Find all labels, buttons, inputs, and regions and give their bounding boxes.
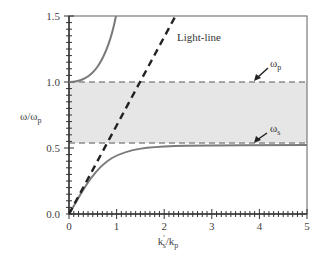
x-tick-label: 2	[161, 220, 167, 232]
x-tick-label: 5	[304, 220, 310, 232]
y-tick-label: 1.0	[46, 76, 60, 88]
x-axis-title: k's/kp	[158, 234, 179, 250]
x-axis-ticks	[69, 209, 307, 219]
x-tick-label: 3	[209, 220, 215, 232]
dispersion-chart: Light-line ωp ωs 0.0 0.5 1.0 1.5 0 1 2 3…	[0, 0, 324, 260]
y-tick-label: 0.5	[46, 142, 60, 154]
light-line-label: Light-line	[177, 31, 221, 43]
y-axis-title: ω/ωp	[20, 110, 42, 125]
omega-p-label: ωp	[270, 57, 281, 72]
y-tick-label: 1.5	[46, 10, 60, 22]
x-tick-label: 1	[114, 220, 120, 232]
upper-branch-curve	[69, 16, 116, 82]
x-tick-label: 0	[66, 220, 72, 232]
y-tick-label: 0.0	[46, 208, 60, 220]
x-tick-label: 4	[257, 220, 263, 232]
lower-branch-curve	[69, 145, 307, 214]
